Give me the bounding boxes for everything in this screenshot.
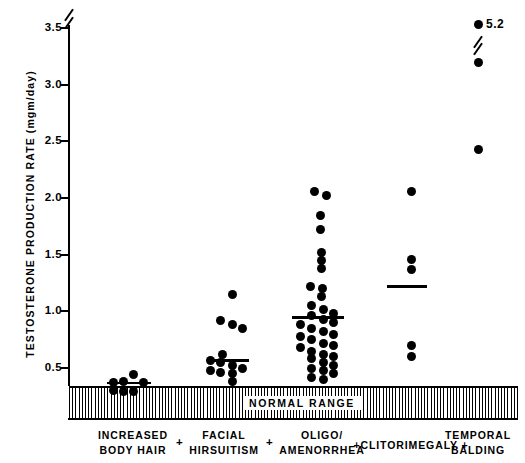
data-point-label: 5.2	[486, 17, 504, 31]
data-point	[296, 332, 305, 341]
data-point	[216, 316, 225, 325]
x-axis-line	[68, 418, 518, 420]
data-point	[310, 187, 319, 196]
data-point	[129, 387, 138, 396]
normal-range-label: NORMAL RANGE	[243, 396, 361, 410]
y-tick-label: 2.5	[32, 134, 62, 146]
data-point	[319, 305, 328, 314]
data-point	[307, 373, 316, 382]
x-group-label: TEMPORALBALDING	[408, 428, 525, 458]
x-group-plus-sign: +	[176, 436, 183, 448]
scatter-plot: TESTOSTERONE PRODUCTION RATE (mgm/day) 3…	[0, 0, 525, 463]
data-point	[119, 387, 128, 396]
group-mean-line	[292, 316, 344, 319]
data-point	[238, 324, 247, 333]
x-group-plus-sign: +	[266, 436, 273, 448]
data-point	[319, 339, 328, 348]
data-point	[316, 225, 325, 234]
data-point	[228, 290, 237, 299]
x-group-label-line2: BALDING	[408, 443, 525, 458]
data-point	[296, 320, 305, 329]
data-point	[317, 292, 326, 301]
data-point	[322, 191, 331, 200]
data-point	[316, 211, 325, 220]
data-point	[307, 301, 316, 310]
data-point	[228, 320, 237, 329]
data-point	[407, 255, 416, 264]
y-axis-line	[68, 25, 70, 386]
data-point	[317, 264, 326, 273]
data-point	[407, 265, 416, 274]
y-tick-label: 1.5	[32, 248, 62, 260]
data-point	[329, 318, 338, 327]
x-group-label-line1: TEMPORAL	[408, 428, 525, 443]
data-point	[216, 368, 225, 377]
group-mean-line	[207, 359, 249, 362]
data-point	[319, 375, 328, 384]
data-point	[319, 366, 328, 375]
data-point	[307, 324, 316, 333]
data-point	[306, 282, 315, 291]
data-point	[407, 352, 416, 361]
y-tick-label: 1.0	[32, 304, 62, 316]
y-tick-label: 3.5	[32, 21, 62, 33]
data-point	[407, 187, 416, 196]
data-point	[329, 352, 338, 361]
group-mean-line	[107, 382, 151, 385]
data-point	[228, 377, 237, 386]
y-tick-label: 2.0	[32, 191, 62, 203]
data-point	[307, 364, 316, 373]
data-point	[474, 145, 483, 154]
data-point	[329, 330, 338, 339]
y-tick-label: 0.5	[32, 361, 62, 373]
y-tick-label: 3.0	[32, 78, 62, 90]
data-point	[129, 370, 138, 379]
data-point	[474, 58, 483, 67]
data-point	[109, 386, 118, 395]
data-point	[206, 366, 215, 375]
data-point	[474, 20, 483, 29]
group-mean-line	[387, 285, 427, 288]
data-point	[307, 335, 316, 344]
data-point	[307, 354, 316, 363]
data-point	[407, 341, 416, 350]
data-point	[238, 364, 247, 373]
data-point	[329, 369, 338, 378]
data-point	[296, 343, 305, 352]
data-point	[319, 327, 328, 336]
data-point	[329, 341, 338, 350]
